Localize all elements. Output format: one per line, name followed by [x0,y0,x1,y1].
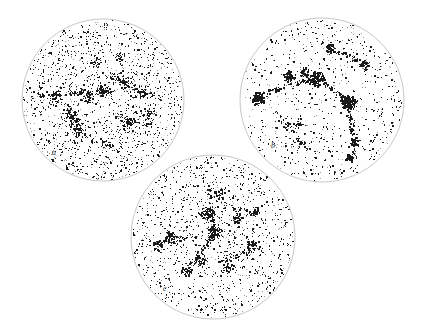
panel-a: a [22,19,184,181]
panel-label-b: b [271,141,275,150]
figure-canvas: abc [0,0,424,331]
sky-distribution-svg: abc [0,0,424,331]
point-cloud-b [244,20,403,181]
panel-b: b [240,18,404,182]
panel-label-a: a [52,148,56,157]
point-cloud-a [23,20,182,180]
point-cloud-c [133,156,294,318]
panel-c: c [131,155,295,319]
panel-label-c: c [163,284,167,293]
